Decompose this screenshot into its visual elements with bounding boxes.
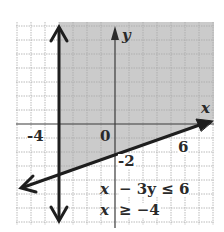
coordinate-plane (0, 0, 224, 232)
y-axis-label: y (122, 28, 131, 43)
tick-label-x-6: 6 (178, 140, 188, 155)
inequality-2-variable: x (100, 203, 109, 218)
origin-label: 0 (100, 129, 110, 144)
arrow-right-icon (196, 119, 213, 131)
inequality-1-text: − 3y ≤ 6 (119, 182, 189, 197)
shaded-solution-region (59, 22, 214, 176)
x-axis-label: x (201, 101, 210, 116)
tick-label-x-neg4: -4 (27, 129, 44, 144)
inequality-2-text: ≥ −4 (119, 203, 160, 218)
tick-label-y-neg2: -2 (118, 154, 135, 169)
inequality-1-variable: x (100, 182, 109, 197)
